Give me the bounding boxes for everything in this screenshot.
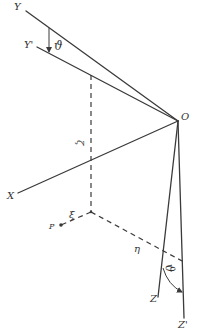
label-eta: η <box>134 243 140 254</box>
label-theta-top: ϑ <box>54 39 63 53</box>
y-axis <box>26 11 178 121</box>
label-y-prime: Y' <box>24 39 33 50</box>
label-z: Z <box>149 293 158 304</box>
x-axis <box>18 121 178 193</box>
rotation-diagram: O Y Y' X Z Z' ϑ ϑ P ξ η ζ <box>0 0 198 333</box>
label-origin: O <box>181 111 189 122</box>
label-y: Y <box>14 1 22 12</box>
corner-point <box>90 211 93 214</box>
label-theta-bottom: ϑ <box>162 263 177 274</box>
z-prime-axis <box>178 121 184 318</box>
label-x: X <box>6 190 15 201</box>
label-z-prime: Z' <box>177 319 188 330</box>
y-prime-axis <box>37 47 178 121</box>
point-p <box>59 223 63 227</box>
label-p: P <box>48 222 55 231</box>
eta-dashed-line <box>91 212 184 262</box>
label-xi: ξ <box>69 209 75 220</box>
xi-dashed-line <box>61 212 91 225</box>
label-zeta: ζ <box>75 140 86 146</box>
